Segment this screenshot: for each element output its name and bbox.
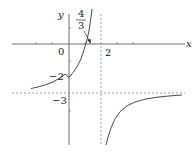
- y-intercept-label: −2: [49, 71, 64, 82]
- origin-label: 0: [58, 46, 64, 57]
- arrowhead-icon: [88, 39, 92, 44]
- vertical-asymptote-label: 2: [105, 47, 111, 58]
- x-axis-label: x: [186, 38, 192, 49]
- horizontal-asymptote-label: −3: [52, 95, 67, 106]
- y-axis-label: y: [57, 9, 64, 20]
- x-intercept-denominator: 3: [78, 20, 84, 31]
- function-graph: y x 0 4 3 2 −2 −3: [0, 0, 195, 152]
- curve-right-branch: [106, 95, 182, 145]
- x-intercept-numerator: 4: [78, 8, 84, 19]
